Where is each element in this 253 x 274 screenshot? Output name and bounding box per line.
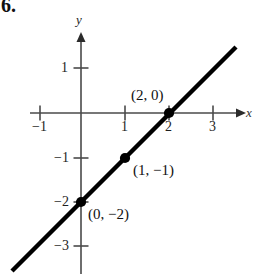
- point-label-1-neg1: (1, −1): [133, 163, 174, 178]
- y-tick-label--1: −1: [54, 151, 69, 165]
- coordinate-plot: [0, 0, 253, 274]
- point-label-0-neg2: (0, −2): [88, 207, 129, 222]
- x-axis-label: x: [246, 106, 252, 119]
- x-tick-label-1: 1: [121, 120, 128, 134]
- x-tick-label-2: 2: [165, 120, 172, 134]
- x-tick-label-3: 3: [209, 120, 216, 134]
- y-tick-label--3: −3: [54, 239, 69, 253]
- y-axis-arrow: [77, 32, 86, 42]
- y-tick-label--2: −2: [54, 195, 69, 209]
- point-label-2-0: (2, 0): [131, 88, 164, 103]
- data-point-2-0: [164, 108, 174, 118]
- graph-figure: 6. y x −1 1 2 3 1 −1 −2 −3 (2, 0) (1,: [0, 0, 253, 274]
- x-axis-arrow: [236, 109, 246, 118]
- data-point-1-neg1: [120, 153, 130, 163]
- y-axis-label: y: [76, 13, 82, 26]
- y-tick-label-1: 1: [61, 61, 68, 75]
- data-point-0-neg2: [76, 197, 86, 207]
- x-tick-label--1: −1: [32, 120, 47, 134]
